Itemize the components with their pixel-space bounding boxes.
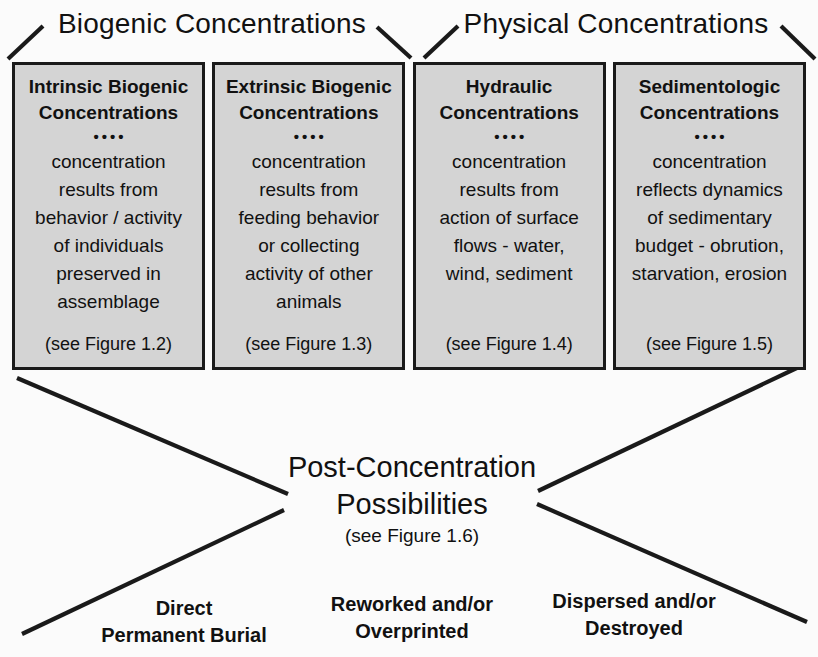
box-title: Extrinsic Biogenic Concentrations (226, 74, 392, 126)
figure-reference: (see Figure 1.2) (45, 334, 172, 355)
figure-reference: (see Figure 1.3) (245, 334, 372, 355)
box-intrinsic-biogenic: Intrinsic Biogenic Concentrations •••• c… (12, 62, 205, 370)
post-concentration-node: Post-Concentration Possibilities (see Fi… (240, 449, 584, 548)
dots-separator: •••• (694, 128, 727, 146)
figure-reference: (see Figure 1.5) (646, 334, 773, 355)
box-sedimentologic: Sedimentologic Concentrations •••• conce… (613, 62, 806, 370)
box-title: Sedimentologic Concentrations (639, 74, 780, 126)
dots-separator: •••• (93, 128, 126, 146)
group-header-physical: Physical Concentrations (416, 8, 816, 40)
box-hydraulic: Hydraulic Concentrations •••• concentrat… (413, 62, 606, 370)
figure-reference: (see Figure 1.6) (240, 524, 584, 548)
box-title: Hydraulic Concentrations (439, 74, 578, 126)
group-header-biogenic: Biogenic Concentrations (12, 8, 412, 40)
box-description: concentration reflects dynamics of sedim… (632, 148, 787, 288)
box-description: concentration results from feeding behav… (239, 148, 380, 316)
box-description: concentration results from behavior / ac… (35, 148, 182, 316)
dots-separator: •••• (494, 128, 527, 146)
concentration-boxes: Intrinsic Biogenic Concentrations •••• c… (12, 62, 806, 370)
outcome-reworked-overprinted: Reworked and/or Overprinted (302, 591, 522, 645)
box-title: Intrinsic Biogenic Concentrations (29, 74, 188, 126)
dots-separator: •••• (294, 128, 327, 146)
outcome-direct-permanent-burial: Direct Permanent Burial (74, 595, 294, 649)
box-extrinsic-biogenic: Extrinsic Biogenic Concentrations •••• c… (212, 62, 405, 370)
post-concentration-title: Post-Concentration Possibilities (240, 449, 584, 523)
outcome-dispersed-destroyed: Dispersed and/or Destroyed (524, 588, 744, 642)
diagram-canvas: Biogenic Concentrations Physical Concent… (0, 0, 818, 657)
box-description: concentration results from action of sur… (439, 148, 578, 288)
figure-reference: (see Figure 1.4) (446, 334, 573, 355)
